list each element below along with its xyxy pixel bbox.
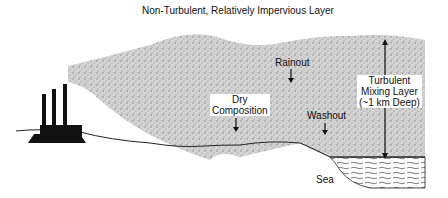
mixing-layer-line2: Mixing Layer (359, 86, 420, 97)
washout-label: Washout (307, 110, 346, 121)
dry-composition-label: Dry Composition (210, 94, 270, 116)
factory-icon (28, 84, 86, 143)
rainout-label: Rainout (275, 57, 309, 68)
top-layer-label: Non-Turbulent, Relatively Impervious Lay… (142, 5, 312, 16)
sea (330, 157, 425, 188)
mixing-layer-label: Turbulent Mixing Layer (~1 km Deep) (357, 75, 422, 108)
mixing-layer-line3: (~1 km Deep) (359, 97, 420, 108)
dry-composition-line2: Composition (212, 105, 268, 116)
mixing-layer-line1: Turbulent (359, 75, 420, 86)
sea-label: Sea (316, 174, 334, 185)
dry-composition-line1: Dry (212, 94, 268, 105)
